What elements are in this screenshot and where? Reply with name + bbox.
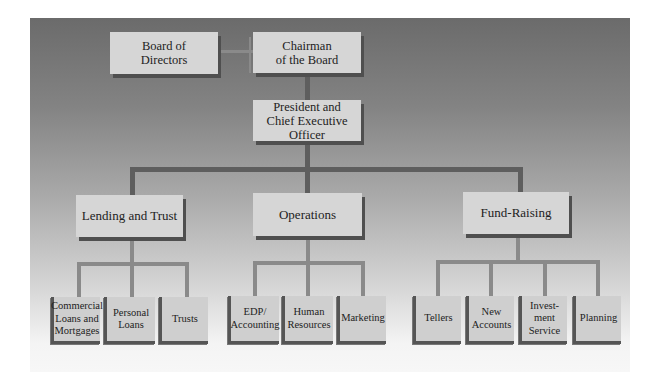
fundraising-drop-4 [596,260,600,296]
chairman-president-connector [305,73,310,100]
unit-edp-accounting: EDP/ Accounting [228,296,279,344]
unit-planning: Planning [573,296,621,344]
division-lending-and-trust: Lending and Trust [76,195,183,237]
division-operations: Operations [253,193,362,236]
unit-tellers: Tellers [413,296,461,344]
unit-investment-service: Invest- ment Service [519,296,567,344]
fundraising-drop-2 [489,260,493,296]
lending-drop-3 [185,262,189,297]
board-of-directors-box: Board of Directors [110,32,218,74]
lending-drop [130,167,135,195]
fundraising-drop [518,167,523,192]
unit-new-accounts: New Accounts [466,296,514,344]
president-ceo-box: President and Chief Executive Officer [253,100,361,141]
unit-commercial-loans: Commercial Loans and Mortgages [51,297,100,344]
divisions-horizontal-bar [130,167,523,172]
lending-bar [77,262,189,266]
unit-trusts: Trusts [159,297,208,344]
board-chairman-connector [218,50,253,53]
unit-personal-loans: Personal Loans [104,297,155,344]
fundraising-bar [436,260,600,264]
chairman-box: Chairman of the Board [253,32,361,73]
operations-drop-3 [361,261,365,296]
fundraising-drop-3 [543,260,547,296]
lending-stem [130,237,134,297]
unit-marketing: Marketing [337,296,386,344]
unit-human-resources: Human Resources [282,296,333,344]
fundraising-drop-1 [436,260,440,296]
board-chairman-connector-vertical [249,37,251,73]
operations-drop-1 [253,261,257,296]
operations-bar [253,261,365,265]
lending-drop-1 [77,262,81,297]
fundraising-stem [516,234,520,262]
division-fund-raising: Fund-Raising [463,192,569,234]
operations-stem [306,236,310,296]
